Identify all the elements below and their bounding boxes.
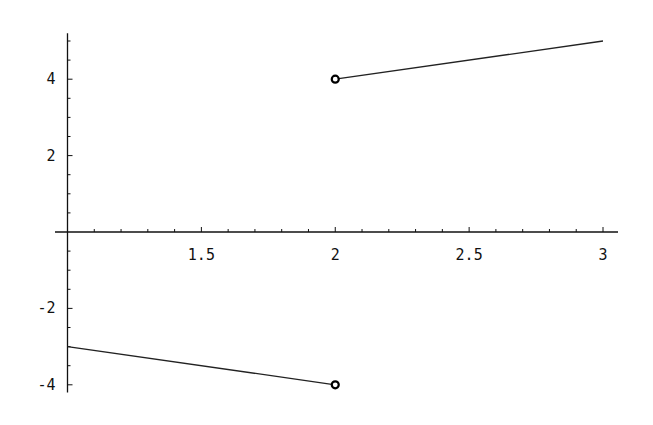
open-circle-marker — [332, 381, 339, 388]
x-tick-label: 1.5 — [188, 246, 215, 264]
axes — [55, 33, 618, 392]
y-tick-label: 4 — [46, 70, 55, 88]
data-series — [68, 41, 604, 388]
series-line — [335, 41, 603, 79]
series-line — [68, 347, 336, 385]
open-circle-marker — [332, 76, 339, 83]
y-tick-label: 2 — [46, 147, 55, 165]
piecewise-line-chart: 1.522.53-4-224 — [0, 0, 653, 425]
y-tick-label: -2 — [37, 299, 55, 317]
x-tick-label: 3 — [598, 246, 607, 264]
x-tick-label: 2.5 — [456, 246, 483, 264]
ticks — [68, 41, 604, 385]
y-tick-label: -4 — [37, 376, 55, 394]
x-tick-label: 2 — [331, 246, 340, 264]
